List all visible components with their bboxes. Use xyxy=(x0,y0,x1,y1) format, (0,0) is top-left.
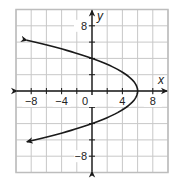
parabola-graph: −8−40488−8 x y xyxy=(0,0,175,186)
x-tick-label: −8 xyxy=(25,95,38,107)
x-tick-label: 8 xyxy=(150,95,156,107)
x-tick-label: 4 xyxy=(119,95,125,107)
axes xyxy=(17,11,167,172)
x-tick-label: −4 xyxy=(55,95,68,107)
y-axis-label: y xyxy=(96,9,104,23)
x-tick-label: 0 xyxy=(82,95,88,107)
x-axis-label: x xyxy=(157,73,165,87)
y-tick-label: 8 xyxy=(81,20,87,32)
y-tick-label: −8 xyxy=(74,150,87,162)
